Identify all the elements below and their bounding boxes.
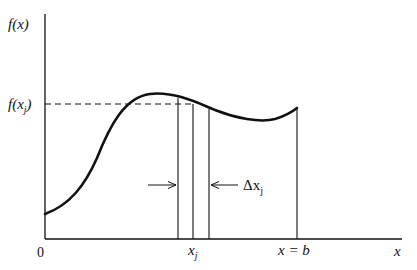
xj-axis-label: xj bbox=[187, 242, 198, 261]
fxj-label: f(xj) bbox=[8, 96, 32, 115]
y-axis-label: f(x) bbox=[8, 16, 29, 33]
x-equals-b-label: x = b bbox=[277, 242, 310, 258]
delta-xj-label: Δxj bbox=[243, 177, 263, 196]
origin-label: 0 bbox=[37, 245, 44, 260]
delta-arrow-left bbox=[148, 182, 176, 189]
delta-arrow-right bbox=[211, 182, 238, 189]
x-axis-label: x bbox=[393, 243, 401, 259]
diagram-canvas: f(x) f(xj) Δxj 0 xj x = b x bbox=[0, 0, 417, 270]
